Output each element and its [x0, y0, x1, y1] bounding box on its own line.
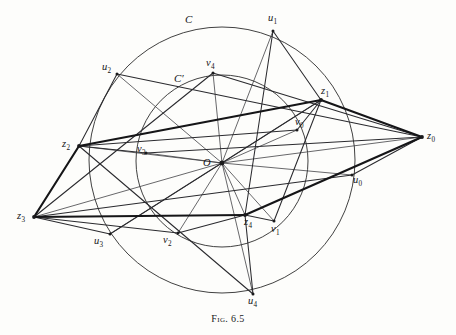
label-u0-subscript: 0 [359, 180, 363, 188]
label-v4: v4 [206, 58, 214, 69]
point-dot-v4 [212, 72, 215, 75]
label-v4-base: v [206, 57, 211, 68]
label-circle-inner-circle: C′ [174, 73, 184, 84]
chord-u2-z2 [79, 74, 117, 146]
label-u2: u2 [102, 62, 111, 73]
label-v1-subscript: 1 [276, 229, 280, 237]
label-u4-base: u [248, 295, 253, 306]
caption-prefix: Fig. [211, 313, 228, 324]
chord-u1-z1 [273, 31, 321, 100]
label-v2-base: v [163, 234, 168, 245]
edge-z3-z4 [34, 215, 245, 217]
point-dot-z2 [77, 144, 81, 148]
chord-u2-z0 [117, 74, 422, 137]
label-v3-subscript: 3 [142, 149, 146, 157]
label-u1-base: u [268, 12, 273, 23]
chord-v3-z0 [146, 137, 422, 153]
label-z4-subscript: 4 [248, 222, 252, 230]
label-z0-subscript: 0 [431, 136, 435, 144]
figure-caption: Fig. 6.5 [0, 313, 456, 324]
label-u1: u1 [268, 13, 277, 24]
label-u3-base: u [94, 235, 99, 246]
label-v2: v2 [163, 235, 171, 246]
figure-container: z0z1z2z3z4u0u1u2u3u4v0v1v2v3v4OCC′ Fig. … [0, 0, 456, 335]
label-v1: v1 [271, 224, 279, 235]
label-O: O [203, 158, 211, 169]
point-dot-z0 [420, 135, 424, 139]
label-u4-subscript: 4 [254, 301, 258, 309]
label-z0: z0 [427, 131, 435, 142]
label-u3: u3 [94, 236, 103, 247]
label-circle-outer-circle: C [185, 14, 192, 25]
point-dot-u1 [272, 30, 275, 33]
radius-o-u0 [222, 163, 352, 175]
label-v0: v0 [295, 117, 303, 128]
geometry-canvas [0, 0, 456, 335]
label-z3-subscript: 3 [21, 216, 25, 224]
label-u1-subscript: 1 [274, 18, 278, 26]
chord-v4-z3 [34, 73, 213, 217]
point-dot-u2 [116, 73, 119, 76]
label-v2-subscript: 2 [168, 240, 172, 248]
label-u2-subscript: 2 [108, 67, 112, 75]
label-v4-subscript: 4 [211, 63, 215, 71]
label-u4: u4 [248, 296, 257, 307]
point-dot-v2 [177, 232, 180, 235]
label-z2: z2 [62, 139, 70, 150]
chord-u3-z3 [34, 217, 110, 234]
label-v0-base: v [295, 116, 300, 127]
label-u0-base: u [353, 174, 358, 185]
label-z4: z4 [244, 217, 252, 228]
label-u3-subscript: 3 [100, 241, 104, 249]
caption-number: 6.5 [231, 313, 245, 324]
label-z1: z1 [321, 86, 329, 97]
point-dot-u3 [109, 233, 112, 236]
point-dot-z3 [32, 215, 36, 219]
label-v0-subscript: 0 [300, 122, 304, 130]
chord-v2-z3 [34, 217, 178, 233]
point-dot-v0 [296, 129, 299, 132]
label-u0: u0 [353, 175, 362, 186]
point-dot-z1 [319, 98, 323, 102]
label-v3: v3 [137, 144, 145, 155]
label-z3: z3 [17, 211, 25, 222]
edge-z0-z1 [321, 100, 422, 137]
label-v3-base: v [137, 143, 142, 154]
label-v1-base: v [271, 223, 276, 234]
label-z1-subscript: 1 [325, 91, 329, 99]
radius-o-z4 [222, 163, 245, 215]
chord-v0-z2 [79, 130, 297, 146]
point-dot-O [220, 161, 225, 166]
label-u2-base: u [102, 61, 107, 72]
label-z2-subscript: 2 [66, 144, 70, 152]
